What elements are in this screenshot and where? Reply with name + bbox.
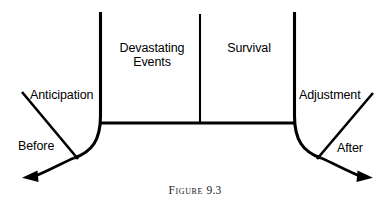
phase-label-devastating-events: Devastating Events: [108, 42, 196, 69]
label-before: Before: [18, 140, 54, 154]
figure-caption-word: Figure: [169, 184, 203, 196]
after-arrow-tail: [321, 158, 361, 177]
label-anticipation: Anticipation: [30, 89, 93, 103]
right-divider: [295, 12, 322, 158]
after-arrow-head: [357, 171, 374, 183]
label-adjustment: Adjustment: [299, 89, 361, 103]
figure-caption-number: 9.3: [206, 184, 221, 196]
phase-label-survival: Survival: [207, 42, 291, 56]
before-arrow-head: [22, 171, 39, 183]
diagram-canvas: [0, 0, 390, 210]
before-arrow-tail: [34, 158, 74, 177]
figure-caption: Figure 9.3: [0, 184, 390, 196]
left-divider: [74, 12, 101, 158]
figure-9-3: Devastating Events Survival Anticipation…: [0, 0, 390, 210]
label-after: After: [337, 142, 363, 156]
